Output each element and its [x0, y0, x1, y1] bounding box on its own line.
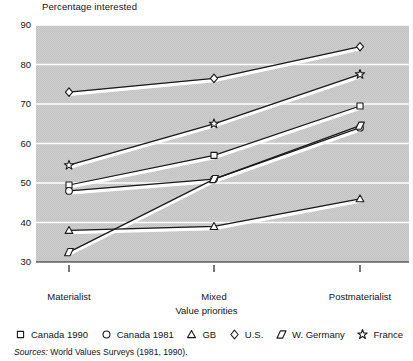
diamond-marker-icon [228, 328, 241, 341]
legend-item-label: U.S. [245, 329, 263, 340]
y-tick-label: 90 [5, 19, 31, 30]
x-tick-label: Postmaterialist [329, 291, 391, 302]
parallelogram-marker-icon [275, 328, 288, 341]
data-point-marker [357, 103, 363, 109]
chart-root: Percentage interested 30405060708090 Mat… [0, 0, 413, 361]
y-tick-label: 30 [5, 256, 31, 267]
y-tick-label: 70 [5, 98, 31, 109]
data-point-marker [211, 152, 217, 158]
legend-item-label: GB [202, 329, 216, 340]
legend-item-label: W. Germany [292, 329, 345, 340]
square-marker-icon [14, 328, 27, 341]
x-tick-marks [69, 265, 360, 272]
y-tick-label: 60 [5, 138, 31, 149]
y-tick-label: 80 [5, 59, 31, 70]
legend-item-label: France [373, 329, 403, 340]
legend-item-france[interactable]: France [356, 328, 403, 341]
legend-item-w-germany[interactable]: W. Germany [275, 328, 345, 341]
sources-note: Sources: World Values Surveys (1981, 199… [14, 347, 188, 357]
star-marker-icon [356, 328, 369, 341]
legend-item-canada-1981[interactable]: Canada 1981 [100, 328, 174, 341]
sources-text: World Values Surveys (1981, 1990). [50, 347, 187, 357]
legend-item-gb[interactable]: GB [185, 328, 216, 341]
legend-item-canada-1990[interactable]: Canada 1990 [14, 328, 88, 341]
sources-label: Sources: [14, 347, 48, 357]
legend-item-label: Canada 1981 [117, 329, 174, 340]
triangle-marker-icon [185, 328, 198, 341]
x-axis-title: Value priorities [0, 305, 413, 316]
x-tick-label: Mixed [201, 291, 226, 302]
chart-legend: Canada 1990Canada 1981GBU.S.W. GermanyFr… [0, 325, 413, 343]
x-tick-label: Materialist [47, 291, 90, 302]
y-tick-label: 40 [5, 217, 31, 228]
legend-item-u-s[interactable]: U.S. [228, 328, 263, 341]
data-point-marker [66, 188, 73, 195]
y-tick-label: 50 [5, 177, 31, 188]
legend-item-label: Canada 1990 [31, 329, 88, 340]
circle-marker-icon [100, 328, 113, 341]
